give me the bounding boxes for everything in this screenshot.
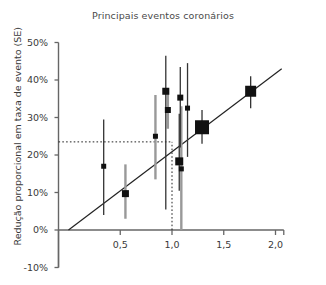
data-point-marker bbox=[177, 95, 183, 101]
y-tick-label: 50% bbox=[14, 37, 48, 48]
y-tick-label: 20% bbox=[14, 149, 48, 160]
data-point-marker bbox=[101, 164, 106, 169]
data-point-marker bbox=[162, 88, 169, 95]
x-tick-label: 2,0 bbox=[261, 239, 291, 250]
data-point-marker bbox=[185, 106, 190, 111]
y-tick-label: 10% bbox=[14, 187, 48, 198]
data-point-marker bbox=[165, 107, 171, 113]
data-point-marker bbox=[153, 134, 158, 139]
data-point-marker bbox=[245, 86, 256, 97]
y-tick-label: 0% bbox=[14, 224, 48, 235]
y-tick-label: 30% bbox=[14, 112, 48, 123]
data-point-marker bbox=[179, 166, 184, 171]
data-points-layer bbox=[101, 56, 256, 230]
data-point-marker bbox=[175, 157, 183, 165]
y-tick-label: 40% bbox=[14, 74, 48, 85]
data-point-marker bbox=[195, 120, 209, 134]
x-tick-label: 1,0 bbox=[157, 239, 187, 250]
x-tick-label: 0,5 bbox=[105, 239, 135, 250]
data-point-marker bbox=[122, 190, 129, 197]
axis-layer bbox=[55, 43, 284, 268]
y-tick-label: -10% bbox=[14, 262, 48, 273]
x-tick-label: 1,5 bbox=[209, 239, 239, 250]
